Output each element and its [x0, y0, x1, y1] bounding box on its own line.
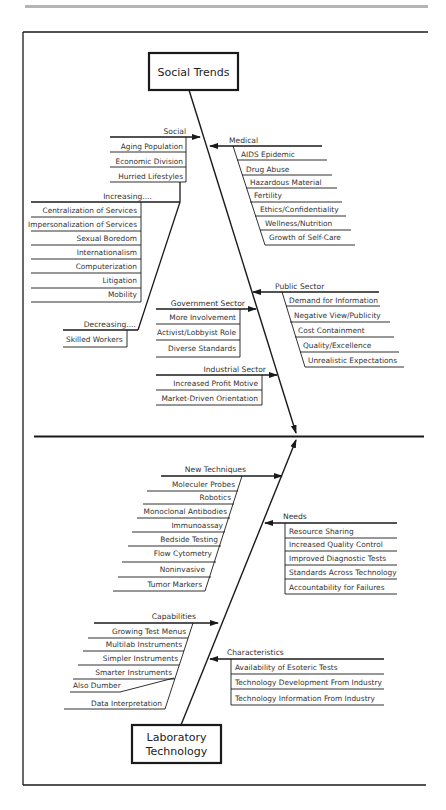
item-label: Mobility: [108, 290, 138, 299]
branch-label-characteristics: Characteristics: [227, 648, 284, 657]
item-label: Resource Sharing: [289, 527, 354, 536]
item-label: Fertility: [254, 191, 282, 200]
item-label: Availability of Esoteric Tests: [235, 663, 338, 672]
fishbone-diagram: Social Trends Laboratory Technology Soci…: [0, 0, 446, 810]
item-label: Technology Development From Industry: [234, 678, 383, 687]
item-label: More Involvement: [169, 313, 236, 322]
branch-label-medical: Medical: [229, 136, 258, 145]
item-label: Ethics/Confidentiality: [260, 205, 339, 214]
item-label: Skilled Workers: [66, 335, 123, 344]
item-label: Tumor Markers: [146, 580, 202, 589]
item-label: Hurried Lifestyles: [118, 172, 183, 181]
item-label: Also Dumber: [73, 681, 122, 690]
branch-medical: [210, 146, 355, 245]
item-label: Accountability for Failures: [289, 583, 385, 592]
item-label: Growing Test Menus: [112, 627, 186, 636]
header-bar: [25, 5, 428, 8]
item-label: Moleculer Probes: [172, 480, 235, 489]
item-label: AIDS Epidemic: [241, 150, 295, 159]
effect-box-laboratory-technology: Laboratory Technology: [132, 725, 221, 763]
item-label: Simpler Instruments: [103, 654, 178, 663]
branch-label-industrial-sector: Industrial Sector: [204, 365, 267, 374]
item-label: Economic Division: [116, 157, 184, 166]
item-label: Bedside Testing: [160, 535, 218, 544]
item-label: Smarter Instruments: [95, 668, 172, 677]
item-label: Robotics: [200, 493, 232, 502]
item-label: Internationalism: [77, 248, 137, 257]
item-label: Demand for Information: [289, 296, 378, 305]
item-label: Wellness/Nutrition: [265, 219, 333, 228]
item-label: Standards Across Technology: [289, 568, 397, 577]
branch-label-government-sector: Government Sector: [171, 299, 246, 308]
item-label: Noninvasive: [160, 565, 206, 574]
branch-label-social: Social: [163, 127, 186, 136]
effect-title-line-1: Laboratory: [147, 731, 207, 744]
item-label: Flow Cytometry: [154, 549, 213, 558]
branch-label-decreasing: Decreasing....: [84, 320, 136, 329]
branch-label-public-sector: Public Sector: [275, 282, 325, 291]
item-label: Activist/Lobbyist Role: [157, 328, 236, 337]
item-label: Impersonalization of Services: [28, 220, 137, 229]
branch-label-needs: Needs: [283, 512, 307, 521]
item-label: Unrealistic Expectations: [308, 356, 397, 365]
item-label: Multilab Instruments: [106, 640, 182, 649]
item-label: Sexual Boredom: [76, 234, 137, 243]
item-label: Improved Diagnostic Tests: [289, 554, 386, 563]
item-label: Diverse Standards: [168, 344, 236, 353]
branch-label-increasing: Increasing....: [103, 192, 152, 201]
item-label: Drug Abuse: [246, 165, 290, 174]
item-label: Hazardous Material: [250, 178, 322, 187]
item-label: Increased Profit Motive: [173, 379, 258, 388]
item-label: Negative View/Publicity: [294, 311, 381, 320]
item-label: Technology Information From Industry: [234, 694, 376, 703]
item-label: Market-Driven Orientation: [161, 394, 258, 403]
diagram-frame: [23, 32, 428, 785]
effect-box-social-trends: Social Trends: [149, 53, 238, 90]
item-label: Monoclonal Antibodies: [144, 507, 228, 516]
item-label: Litigation: [103, 276, 138, 285]
effect-title-social-trends: Social Trends: [158, 66, 230, 79]
item-label: Immunoassay: [171, 521, 223, 530]
item-label: Centralization of Services: [42, 206, 137, 215]
item-label: Aging Population: [121, 142, 184, 151]
item-label: Increased Quality Control: [289, 540, 383, 549]
item-label: Cost Containment: [298, 326, 365, 335]
spines: [34, 90, 424, 725]
effect-title-line-2: Technology: [145, 745, 208, 758]
branch-label-new-techniques: New Techniques: [185, 465, 246, 474]
item-label: Computerization: [76, 262, 138, 271]
item-label: Data Interpretation: [91, 699, 162, 708]
branch-label-capabilities: Capabilities: [152, 612, 196, 621]
item-label: Quality/Excellence: [303, 341, 372, 350]
item-label: Growth of Self-Care: [269, 233, 341, 242]
